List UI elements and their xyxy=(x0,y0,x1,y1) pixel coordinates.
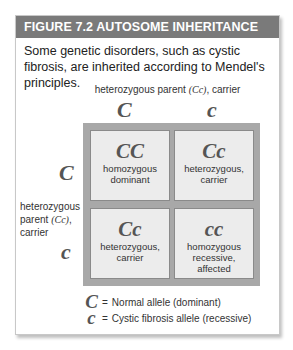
cell-genotype: cc xyxy=(175,218,253,240)
left-parent-genotype: (Cc) xyxy=(51,214,69,225)
top-parent-label-pre: heterozygous parent xyxy=(95,84,189,95)
figure-panel: FIGURE 7.2 AUTOSOME INHERITANCE Some gen… xyxy=(15,15,280,335)
cell-genotype: CC xyxy=(91,140,169,162)
cell-description-line2: carrier xyxy=(91,252,169,263)
cell-description-line2: recessive, affected xyxy=(175,252,253,274)
legend-row-recessive: c=Cystic fibrosis allele (recessive) xyxy=(84,307,274,323)
cell-genotype: Cc xyxy=(91,218,169,240)
cell-description-line1: homozygous xyxy=(91,163,169,174)
top-allele-dominant: C xyxy=(117,99,132,121)
cell-description-line1: heterozygous, xyxy=(91,241,169,252)
top-parent-label-post: , carrier xyxy=(206,84,240,95)
cell-description-line1: heterozygous, xyxy=(175,163,253,174)
allele-legend: C=Normal allele (dominant) c=Cystic fibr… xyxy=(84,291,274,323)
punnett-cell-cc: cc homozygous recessive, affected xyxy=(174,208,254,279)
punnett-cell-Cc-top: Cc heterozygous, carrier xyxy=(174,130,254,201)
cell-description-line2: carrier xyxy=(175,174,253,185)
punnett-cell-CC: CC homozygous dominant xyxy=(90,130,170,201)
punnett-cell-Cc-bottom: Cc heterozygous, carrier xyxy=(90,208,170,279)
legend-equals: = xyxy=(102,313,108,324)
cell-description-line1: homozygous xyxy=(175,241,253,252)
left-parent-label: heterozygous parent (Cc), carrier xyxy=(20,200,82,239)
punnett-square: CC homozygous dominant Cc heterozygous, … xyxy=(83,123,260,286)
top-parent-genotype: (Cc) xyxy=(189,84,207,95)
top-allele-recessive: c xyxy=(207,99,217,121)
legend-text: Cystic fibrosis allele (recessive) xyxy=(112,313,251,324)
cell-description-line2: dominant xyxy=(91,174,169,185)
legend-row-dominant: C=Normal allele (dominant) xyxy=(84,291,274,307)
cell-genotype: Cc xyxy=(175,140,253,162)
figure-title: FIGURE 7.2 AUTOSOME INHERITANCE xyxy=(16,16,279,38)
legend-equals: = xyxy=(102,297,108,308)
left-allele-recessive: c xyxy=(61,241,71,263)
left-allele-dominant: C xyxy=(59,162,74,184)
legend-text: Normal allele (dominant) xyxy=(112,297,221,308)
legend-symbol: c xyxy=(84,307,99,329)
top-parent-label: heterozygous parent (Cc), carrier xyxy=(16,84,279,95)
